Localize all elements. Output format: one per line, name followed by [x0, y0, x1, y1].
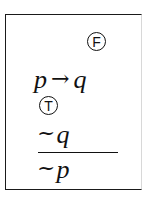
truth-mark-t-letter: T — [44, 99, 53, 113]
variable-p: p — [56, 155, 69, 184]
premise-conditional: p→q — [34, 67, 86, 93]
conclusion-divider-line — [38, 152, 118, 153]
negation-tilde-icon: ~ — [37, 155, 55, 180]
antecedent-p: p — [34, 65, 47, 94]
truth-mark-f-letter: F — [92, 35, 101, 49]
conclusion-not-p: ~p — [37, 157, 69, 183]
consequent-q: q — [73, 65, 86, 94]
premise-not-q: ~q — [37, 122, 69, 148]
negation-tilde-icon: ~ — [37, 120, 55, 145]
circled-f-truth-mark: F — [87, 32, 106, 51]
implication-arrow-icon: → — [51, 66, 69, 91]
argument-frame — [5, 14, 142, 190]
circled-t-truth-mark: T — [39, 96, 58, 115]
variable-q: q — [56, 120, 69, 149]
